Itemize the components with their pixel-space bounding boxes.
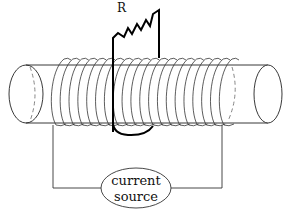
cylinder-left-hidden-edge xyxy=(30,67,35,121)
source-label-line2: source xyxy=(114,189,158,204)
diagram-canvas: R current source xyxy=(0,0,288,211)
cylinder-right-hidden-edge xyxy=(228,67,235,121)
cylinder-right-end xyxy=(254,65,282,123)
resistor-zigzag xyxy=(113,10,159,132)
solenoid-diagram: R current source xyxy=(0,0,288,211)
solenoid-coil xyxy=(51,58,239,126)
left-wire xyxy=(53,125,101,188)
resistor-label: R xyxy=(117,1,127,15)
right-wire xyxy=(171,125,222,188)
cylinder-sides xyxy=(26,65,268,123)
cylinder xyxy=(9,65,282,123)
coil-turn xyxy=(219,58,239,126)
cylinder-left-end xyxy=(9,65,43,123)
secondary-loop xyxy=(113,10,159,135)
source-label-line1: current xyxy=(111,173,161,188)
